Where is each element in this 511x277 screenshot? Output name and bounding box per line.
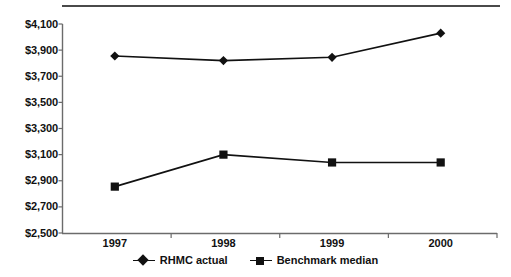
axis-lines	[62, 24, 497, 234]
y-tick-label: $2,500	[2, 228, 58, 239]
legend-entry-2[interactable]: Benchmark median	[250, 255, 378, 266]
square-marker-icon	[111, 183, 119, 191]
diamond-marker-icon	[327, 53, 336, 62]
y-tick-label: $4,100	[2, 19, 58, 30]
y-tick-label: $2,900	[2, 175, 58, 186]
diamond-marker-icon	[133, 255, 155, 266]
y-axis-labels: $4,100$3,900$3,700$3,500$3,300$3,100$2,9…	[0, 0, 58, 277]
square-marker-icon	[250, 255, 272, 266]
series-1	[110, 29, 445, 66]
series-line	[115, 33, 441, 60]
y-tick-label: $3,700	[2, 71, 58, 82]
square-marker-icon	[256, 257, 264, 265]
y-tick-label: $3,300	[2, 123, 58, 134]
x-tick-label: 2000	[428, 238, 452, 249]
x-tick-label: 1999	[320, 238, 344, 249]
legend-label: RHMC actual	[160, 255, 228, 266]
y-tick-label: $3,100	[2, 149, 58, 160]
data-series-layer	[110, 29, 445, 191]
x-tick-label: 1997	[103, 238, 127, 249]
plot-area	[0, 0, 511, 277]
y-tick-label: $2,700	[2, 201, 58, 212]
legend-entry-1[interactable]: RHMC actual	[133, 255, 228, 266]
y-tick-label: $3,900	[2, 45, 58, 56]
legend-label: Benchmark median	[277, 255, 378, 266]
diamond-marker-icon	[137, 254, 148, 265]
diamond-marker-icon	[436, 29, 445, 38]
series-2	[111, 151, 445, 191]
square-marker-icon	[219, 151, 227, 159]
diamond-marker-icon	[219, 56, 228, 65]
diamond-marker-icon	[110, 51, 119, 60]
line-chart: $4,100$3,900$3,700$3,500$3,300$3,100$2,9…	[0, 0, 511, 277]
square-marker-icon	[328, 158, 336, 166]
square-marker-icon	[437, 158, 445, 166]
x-tick-label: 1998	[211, 238, 235, 249]
series-line	[115, 155, 441, 187]
chart-legend: RHMC actualBenchmark median	[0, 252, 511, 268]
y-tick-label: $3,500	[2, 97, 58, 108]
